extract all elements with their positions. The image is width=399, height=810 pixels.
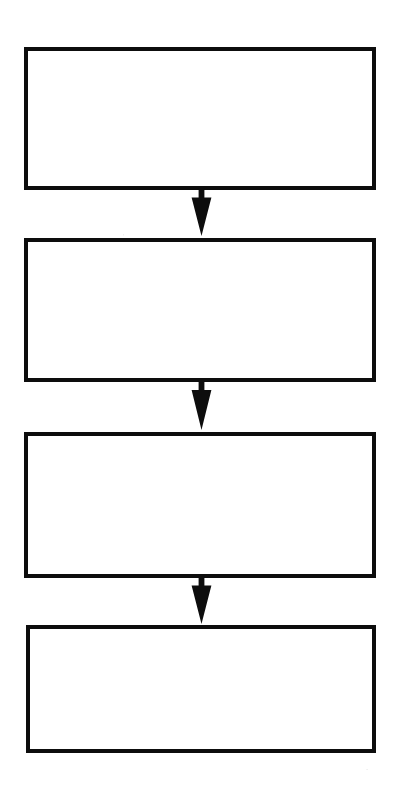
flowchart-node-label	[28, 51, 372, 186]
arrow-down-icon	[191, 188, 211, 236]
arrow-down-icon	[191, 380, 211, 430]
flowchart-node-step-4[interactable]	[26, 625, 376, 753]
flowchart-arrow-down-3	[191, 576, 212, 624]
flowchart-node-step-3[interactable]	[24, 432, 376, 578]
flowchart-node-label	[28, 436, 372, 574]
flowchart-node-label	[28, 242, 372, 378]
flowchart-node-step-2[interactable]	[24, 238, 376, 382]
flowchart-node-label	[30, 629, 372, 749]
flowchart-canvas	[0, 0, 399, 810]
arrow-down-icon	[191, 576, 211, 624]
flowchart-arrow-down-2	[191, 380, 212, 430]
flowchart-arrow-down-1	[191, 188, 212, 236]
flowchart-node-step-1[interactable]	[24, 47, 376, 190]
